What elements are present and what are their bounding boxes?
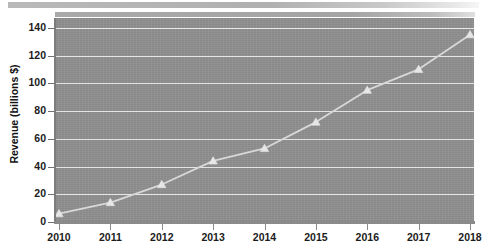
x-tick-mark <box>367 224 368 230</box>
revenue-line-chart: 020406080100120140 201020112012201320142… <box>0 0 487 251</box>
x-tick-label: 2011 <box>82 232 138 243</box>
y-tick-mark <box>48 28 54 29</box>
series-line-revenue <box>59 35 470 214</box>
y-axis-title: Revenue (billions $) <box>8 49 20 179</box>
series-group <box>55 18 474 222</box>
x-tick-mark <box>265 224 266 230</box>
y-tick-mark <box>48 222 54 223</box>
data-point-marker <box>312 118 320 125</box>
series-markers-revenue <box>55 30 474 216</box>
x-tick-label: 2016 <box>339 232 395 243</box>
x-tick-label: 2014 <box>237 232 293 243</box>
x-tick-mark <box>213 224 214 230</box>
y-axis-line <box>54 18 56 223</box>
x-tick-label: 2010 <box>31 232 87 243</box>
y-tick-mark <box>48 56 54 57</box>
y-tick-label: 20 <box>4 188 46 199</box>
x-tick-mark <box>59 224 60 230</box>
y-tick-mark <box>48 167 54 168</box>
y-tick-mark <box>48 194 54 195</box>
plot-area <box>55 18 474 222</box>
y-tick-mark <box>48 139 54 140</box>
x-tick-label: 2013 <box>185 232 241 243</box>
x-tick-mark <box>110 224 111 230</box>
y-tick-mark <box>48 111 54 112</box>
x-tick-label: 2015 <box>288 232 344 243</box>
data-point-marker <box>466 30 474 37</box>
y-tick-label: 0 <box>4 216 46 227</box>
x-tick-label: 2017 <box>391 232 447 243</box>
y-tick-label: 140 <box>4 22 46 33</box>
x-tick-label: 2012 <box>134 232 190 243</box>
x-tick-mark <box>419 224 420 230</box>
x-tick-mark <box>470 224 471 230</box>
x-tick-mark <box>316 224 317 230</box>
data-point-marker <box>414 65 422 72</box>
y-tick-mark <box>48 83 54 84</box>
x-tick-mark <box>162 224 163 230</box>
chart-page: 020406080100120140 201020112012201320142… <box>0 0 487 251</box>
x-tick-label: 2018 <box>442 232 487 243</box>
